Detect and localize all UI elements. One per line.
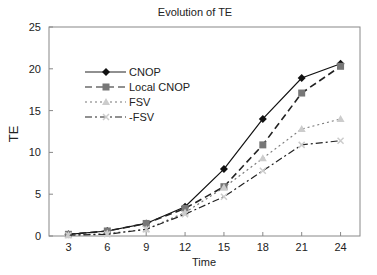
legend-label: FSV (129, 96, 151, 108)
x-axis-label: Time (192, 256, 216, 268)
x-tick-label: 12 (179, 241, 191, 253)
y-tick-label: 10 (29, 146, 41, 158)
y-tick-label: 0 (35, 230, 41, 242)
legend-item: FSV (85, 96, 151, 108)
y-tick-label: 15 (29, 105, 41, 117)
te-line-chart: Evolution of TE 0510152025 3691215182124… (0, 0, 377, 275)
legend-label: Local CNOP (129, 81, 190, 93)
x-tick-label: 3 (65, 241, 71, 253)
y-tick-label: 5 (35, 188, 41, 200)
chart-title: Evolution of TE (158, 6, 232, 18)
x-tick-label: 24 (334, 241, 346, 253)
legend-label: CNOP (129, 66, 161, 78)
legend-item: CNOP (85, 66, 161, 78)
y-axis-label: TE (6, 125, 21, 142)
series-fsv (64, 115, 344, 238)
plot-frame (49, 27, 360, 236)
legend: CNOPLocal CNOPFSV-FSV (85, 66, 190, 123)
y-tick-label: 20 (29, 63, 41, 75)
x-tick-label: 21 (296, 241, 308, 253)
y-tick-label: 25 (29, 21, 41, 33)
x-tick-label: 9 (143, 241, 149, 253)
legend-label: -FSV (129, 111, 155, 123)
x-tick-label: 6 (104, 241, 110, 253)
legend-item: -FSV (85, 111, 155, 123)
x-tick-label: 18 (257, 241, 269, 253)
legend-item: Local CNOP (85, 81, 190, 93)
x-tick-label: 15 (218, 241, 230, 253)
